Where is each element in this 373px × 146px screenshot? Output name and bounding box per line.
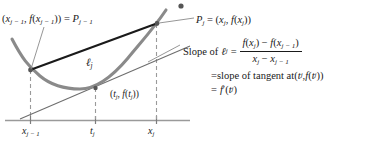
slope-of-tangent-text: slope of tangent at [217, 70, 294, 81]
slope-of-text: Slope of [183, 46, 218, 57]
equals-sign: = [204, 14, 215, 25]
equals-sign: = [231, 46, 237, 57]
sub-P-j-minus-1: j − 1 [79, 18, 93, 26]
axis-tick-label-x-j: xj [148, 126, 154, 138]
axis-tick-label-x-j-minus-1: xj − 1 [22, 126, 40, 138]
label-point-p-j: Pj = (xj, f(xj)) [196, 15, 251, 27]
equals-sign: = [61, 13, 72, 24]
equals-sign: = [211, 84, 217, 95]
paren-close-2: ) [295, 37, 299, 48]
point-P-j-minus-1-marker [28, 68, 33, 73]
paren-close: ) [136, 89, 139, 99]
minus-sign: − [259, 37, 270, 48]
slope-equation-block: Slope of ℓj = f(xj) − f(xj − 1) xj − xj … [183, 37, 324, 95]
paren-close: ) [248, 14, 252, 25]
tick-sub: j [152, 130, 154, 137]
sub-j-minus-1: j − 1 [275, 58, 289, 66]
curve-top-dot [178, 3, 183, 8]
paren-close: ) [234, 84, 238, 95]
leader-line-right-point [159, 18, 194, 23]
tick-sub: j [93, 130, 95, 137]
point-P-j-marker [155, 21, 160, 26]
tangent-point-marker [93, 86, 97, 90]
sub-j-minus-1: j − 1 [281, 42, 295, 50]
fraction-numerator: f(xj) − f(xj − 1) [240, 37, 302, 51]
sub-j-minus-1-inner: j − 1 [40, 18, 54, 26]
ell-subscript: j [226, 47, 228, 55]
tangent-line [20, 46, 190, 119]
leader-line-slope-annotation [148, 45, 180, 62]
paren-close: ) [320, 70, 324, 81]
tick-sub: j − 1 [26, 130, 39, 137]
figure-container: (xj − 1, f(xj − 1)) = Pj − 1 Pj = (xj, f… [0, 0, 373, 146]
difference-quotient-fraction: f(xj) − f(xj − 1) xj − xj − 1 [240, 37, 302, 66]
label-tangent-point-coords: (tj, f(tj)) [110, 90, 139, 100]
fraction-denominator: xj − xj − 1 [250, 52, 292, 66]
leader-line-left-point [31, 27, 44, 69]
ell-subscript: j [91, 61, 93, 70]
label-secant-line-ell-j: ℓj [86, 57, 93, 70]
equation-row-difference-quotient: Slope of ℓj = f(xj) − f(xj − 1) xj − xj … [183, 37, 324, 66]
sub-j-minus-1: j − 1 [10, 18, 24, 26]
minus-sign: − [259, 53, 270, 64]
equation-row-slope-of-tangent: = slope of tangent at (tj, f(tj)) [211, 70, 324, 81]
axis-tick-label-t-j: tj [90, 126, 95, 138]
equation-row-derivative: =f′(tj) [211, 84, 324, 95]
label-point-p-j-minus-1: (xj − 1, f(xj − 1)) = Pj − 1 [2, 14, 93, 26]
